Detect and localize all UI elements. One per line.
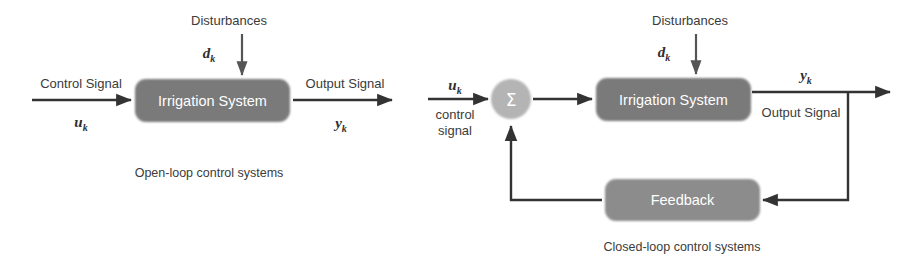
closed-loop-output-symbol-base: y	[798, 67, 807, 83]
open-loop-input-symbol-base: u	[74, 114, 82, 130]
open-loop-output-label: Output Signal	[306, 76, 385, 91]
closed-loop-disturbance-symbol-subscript: k	[665, 52, 670, 63]
closed-loop-disturbance-label: Disturbances	[652, 13, 728, 28]
open-loop-output-symbol-subscript: k	[342, 123, 347, 134]
open-loop-disturbance-label: Disturbances	[191, 13, 267, 28]
closed-loop-output-arrow-group: yk Output Signal	[752, 67, 890, 120]
closed-loop-diagram: uk control signal Σ Irrigation System Di…	[428, 13, 890, 254]
closed-loop-feedback-block-label: Feedback	[651, 192, 715, 208]
closed-loop-plant-block-label: Irrigation System	[619, 92, 728, 108]
open-loop-output-symbol-base: y	[333, 115, 342, 131]
closed-loop-input-symbol-subscript: k	[457, 85, 462, 96]
open-loop-input-label: Control Signal	[40, 76, 122, 91]
closed-loop-input-label-line2: signal	[438, 123, 472, 138]
closed-loop-plant-block[interactable]: Irrigation System	[596, 78, 751, 121]
open-loop-disturbance-group: Disturbances dk	[191, 13, 267, 75]
open-loop-output-symbol: yk	[333, 115, 347, 134]
closed-loop-input-symbol: uk	[448, 77, 461, 96]
summing-junction-label: Σ	[506, 90, 517, 110]
closed-loop-input-symbol-base: u	[448, 77, 456, 93]
closed-loop-feedback-block[interactable]: Feedback	[605, 179, 760, 221]
open-loop-output-arrow-group: Output Signal yk	[293, 76, 392, 134]
closed-loop-input-label-line1: control	[435, 107, 474, 122]
open-loop-plant-block[interactable]: Irrigation System	[135, 79, 290, 122]
open-loop-disturbance-symbol-subscript: k	[210, 53, 215, 64]
closed-loop-output-label: Output Signal	[762, 105, 841, 120]
closed-loop-output-symbol: yk	[798, 67, 812, 86]
open-loop-disturbance-symbol: dk	[203, 45, 216, 64]
open-loop-plant-block-label: Irrigation System	[158, 93, 267, 109]
open-loop-caption: Open-loop control systems	[135, 166, 284, 180]
open-loop-diagram: Irrigation System Control Signal uk Outp…	[32, 13, 392, 180]
closed-loop-summing-junction[interactable]: Σ	[491, 79, 531, 119]
open-loop-input-symbol-subscript: k	[83, 122, 88, 133]
closed-loop-disturbance-group: Disturbances dk	[652, 13, 728, 74]
control-systems-figure: Irrigation System Control Signal uk Outp…	[0, 0, 906, 279]
closed-loop-feedback-return-path	[511, 126, 602, 200]
open-loop-input-symbol: uk	[74, 114, 87, 133]
closed-loop-input-arrow-group: uk control signal	[428, 77, 488, 138]
closed-loop-output-symbol-subscript: k	[807, 75, 812, 86]
closed-loop-caption: Closed-loop control systems	[603, 240, 760, 254]
diagram-canvas: Irrigation System Control Signal uk Outp…	[0, 0, 906, 279]
closed-loop-disturbance-symbol: dk	[658, 44, 671, 63]
open-loop-input-arrow-group: Control Signal uk	[32, 76, 131, 133]
